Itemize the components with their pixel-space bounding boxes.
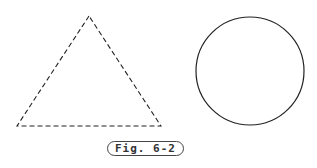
figure-caption: Fig. 6-2 xyxy=(107,141,184,156)
dashed-triangle xyxy=(17,16,161,126)
circle xyxy=(196,17,304,125)
